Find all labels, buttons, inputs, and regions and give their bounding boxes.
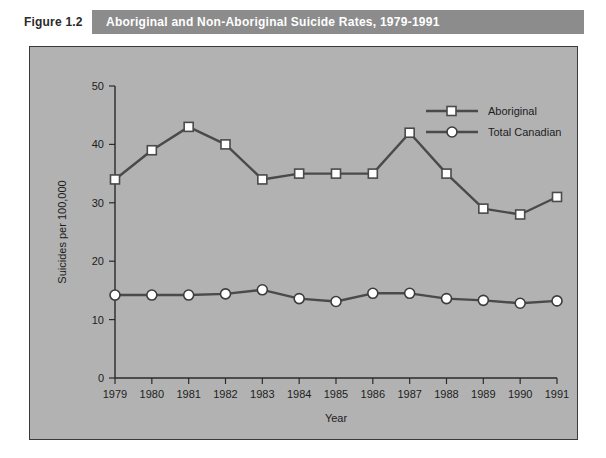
data-point-marker xyxy=(184,122,193,131)
data-point-marker xyxy=(295,169,304,178)
data-point-marker xyxy=(221,140,230,149)
data-point-marker xyxy=(405,128,414,137)
x-tick-label: 1990 xyxy=(508,388,532,400)
x-tick-label: 1985 xyxy=(324,388,348,400)
chart-plot-area: 01020304050 1979198019811982198319841985… xyxy=(30,47,579,441)
data-point-marker xyxy=(368,288,378,298)
data-point-marker xyxy=(331,296,341,306)
y-axis: 01020304050 xyxy=(92,80,115,384)
data-point-marker xyxy=(111,175,120,184)
figure-caption-bar: Figure 1.2 Aboriginal and Non-Aboriginal… xyxy=(0,10,606,34)
data-point-marker xyxy=(442,169,451,178)
caption-title-band: Aboriginal and Non-Aboriginal Suicide Ra… xyxy=(92,10,584,34)
chart-legend: AboriginalTotal Canadian xyxy=(426,105,561,138)
data-point-marker xyxy=(405,288,415,298)
data-point-marker xyxy=(479,204,488,213)
x-tick-label: 1979 xyxy=(103,388,127,400)
x-tick-label: 1986 xyxy=(361,388,385,400)
figure-title: Aboriginal and Non-Aboriginal Suicide Ra… xyxy=(106,15,440,29)
x-tick-label: 1989 xyxy=(471,388,495,400)
data-point-marker xyxy=(515,298,525,308)
y-tick-label: 40 xyxy=(92,138,104,150)
y-tick-label: 20 xyxy=(92,255,104,267)
chart-series-group xyxy=(110,122,562,308)
y-tick-label: 0 xyxy=(98,372,104,384)
legend-label: Aboriginal xyxy=(488,105,537,117)
figure-frame: 01020304050 1979198019811982198319841985… xyxy=(29,46,578,440)
legend-marker xyxy=(447,107,456,116)
data-point-marker xyxy=(442,294,452,304)
legend-marker xyxy=(447,127,457,137)
x-tick-label: 1987 xyxy=(397,388,421,400)
x-axis: 1979198019811982198319841985198619871988… xyxy=(103,378,569,400)
x-tick-label: 1982 xyxy=(213,388,237,400)
data-point-marker xyxy=(221,289,231,299)
data-point-marker xyxy=(368,169,377,178)
data-point-marker xyxy=(184,290,194,300)
data-point-marker xyxy=(478,295,488,305)
x-tick-label: 1991 xyxy=(545,388,569,400)
data-point-marker xyxy=(516,210,525,219)
y-tick-label: 50 xyxy=(92,80,104,92)
data-point-marker xyxy=(553,192,562,201)
data-point-marker xyxy=(332,169,341,178)
y-tick-label: 10 xyxy=(92,314,104,326)
x-tick-label: 1981 xyxy=(176,388,200,400)
y-axis-title: Suicides per 100,000 xyxy=(56,180,68,283)
data-point-marker xyxy=(110,290,120,300)
data-point-marker xyxy=(257,285,267,295)
figure-number-label: Figure 1.2 xyxy=(0,10,92,34)
legend-label: Total Canadian xyxy=(488,126,561,138)
data-point-marker xyxy=(552,296,562,306)
x-tick-label: 1983 xyxy=(250,388,274,400)
x-tick-label: 1984 xyxy=(287,388,311,400)
data-point-marker xyxy=(294,294,304,304)
x-tick-label: 1980 xyxy=(140,388,164,400)
data-point-marker xyxy=(258,175,267,184)
data-point-marker xyxy=(147,146,156,155)
x-axis-title: Year xyxy=(325,412,348,424)
x-tick-label: 1988 xyxy=(434,388,458,400)
line-chart-svg: 01020304050 1979198019811982198319841985… xyxy=(30,47,579,441)
y-tick-label: 30 xyxy=(92,197,104,209)
data-point-marker xyxy=(147,290,157,300)
